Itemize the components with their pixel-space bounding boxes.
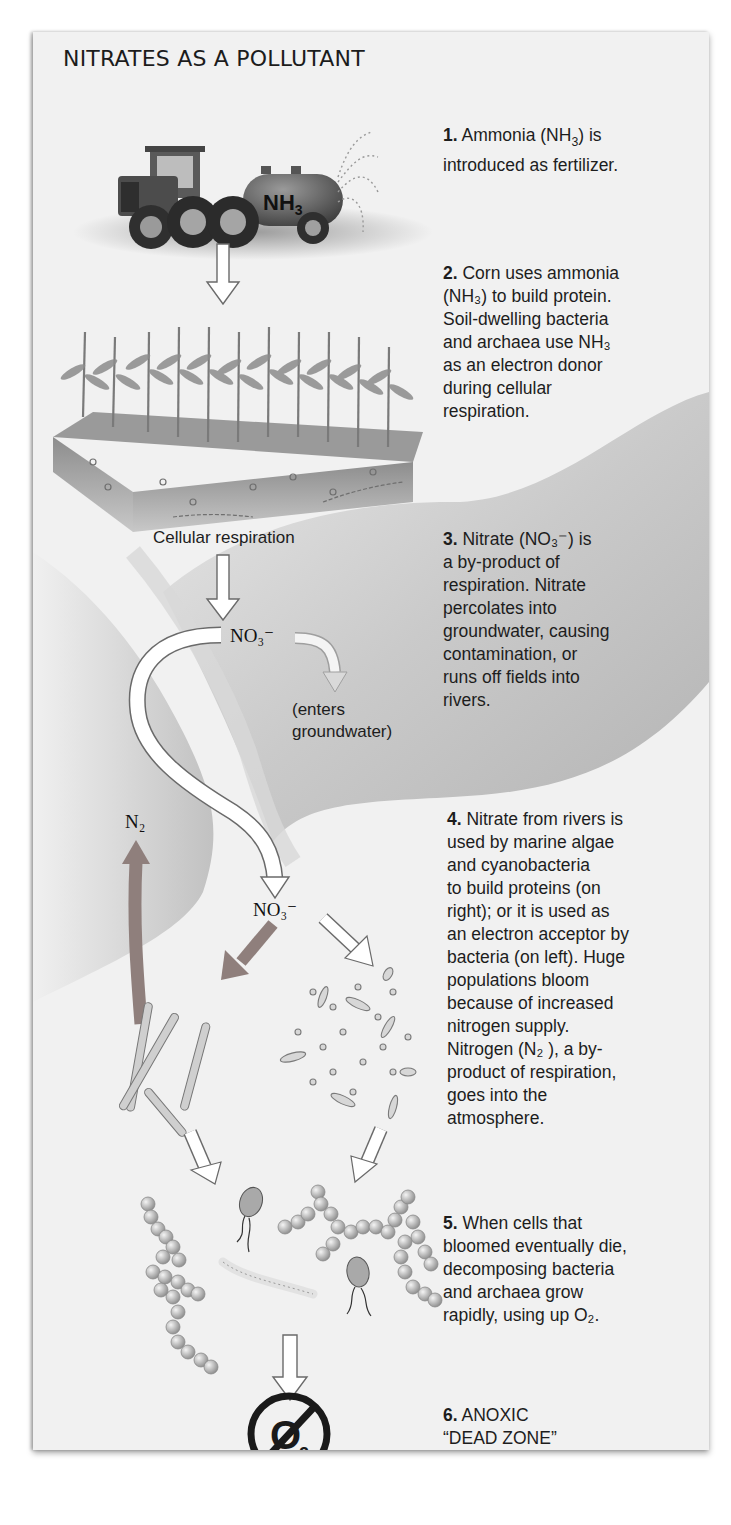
arrow-down-final (273, 1335, 307, 1400)
flagellated-cells (236, 1184, 372, 1316)
nitrate-label-river: NO₃⁻ (253, 898, 297, 921)
step-3-number: 3. (443, 529, 458, 549)
arrow-to-decomposers-left (190, 1132, 221, 1184)
step-5-number: 5. (443, 1213, 458, 1233)
step-2-number: 2. (443, 263, 458, 283)
n2-label: N₂ (125, 811, 145, 833)
filamentous-bacteria (118, 1002, 211, 1138)
arrow-to-decomposers-right (351, 1129, 381, 1182)
step-3: 3. Nitrate (NO₃⁻) is a by-product of res… (443, 528, 698, 712)
cornfield-illustration (53, 327, 423, 532)
step-2: 2. Corn uses ammonia (NH₃) to build prot… (443, 262, 698, 423)
step-1: 1. Ammonia (NH3) is introduced as fertil… (443, 124, 698, 177)
step-6-number: 6. (443, 1405, 458, 1425)
arrow-to-denitrifying-bacteria (221, 924, 273, 980)
step-5: 5. When cells that bloomed eventually di… (443, 1212, 701, 1327)
cellular-respiration-label: Cellular respiration (153, 527, 295, 549)
step-6: 6. ANOXIC “DEAD ZONE” (443, 1404, 701, 1450)
svg-text:2: 2 (299, 1444, 309, 1450)
step-1-number: 1. (443, 125, 458, 145)
arrow-n2-up (135, 862, 141, 1024)
step-4-number: 4. (447, 809, 462, 829)
tractor-illustration: NH3 (73, 132, 433, 260)
nitrate-label-top: NO₃⁻ (230, 624, 274, 647)
no-oxygen-icon: O 2 (251, 1396, 327, 1450)
enters-groundwater-label-1: (enters (292, 699, 345, 721)
algae-bloom (279, 966, 416, 1120)
worm-decomposer (223, 1262, 313, 1294)
step-4: 4. Nitrate from rivers is used by marine… (447, 808, 705, 1130)
enters-groundwater-label-2: groundwater) (292, 721, 392, 743)
arrow-to-algae (323, 918, 373, 966)
figure-panel: NITRATES AS A POLLUTANT (33, 32, 709, 1450)
